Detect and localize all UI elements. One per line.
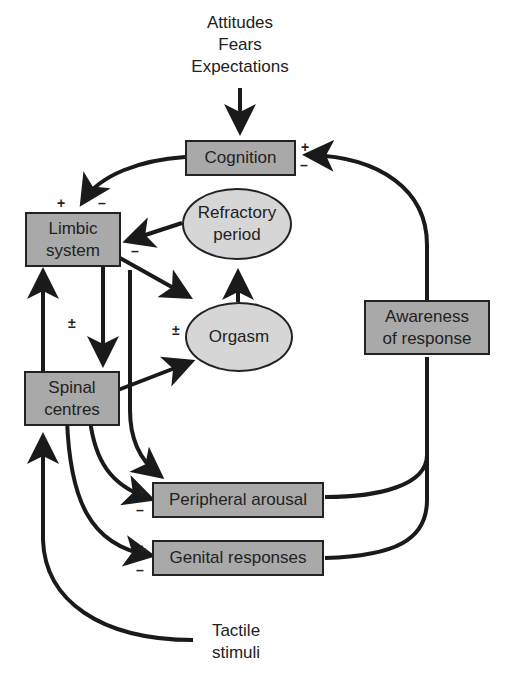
node-awareness-of-response: Awareness of response — [364, 300, 490, 355]
node-limbic-system-label: Limbic system — [46, 218, 100, 262]
node-cognition: Cognition — [185, 140, 296, 176]
node-awareness-of-response-label: Awareness of response — [383, 306, 472, 350]
genital-plus-sign: + — [138, 542, 146, 556]
orgasm-plus-minus-sign: ± — [172, 323, 180, 337]
node-spinal-centres-label: Spinal centres — [44, 377, 100, 421]
node-genital-responses-label: Genital responses — [169, 547, 306, 569]
input-tactile-stimuli: Tactile stimuli — [196, 620, 276, 664]
limbic-minus-sign: – — [98, 196, 106, 210]
peripheral-minus-sign: – — [136, 503, 144, 517]
peripheral-plus-sign: + — [138, 485, 146, 499]
node-orgasm-label: Orgasm — [209, 326, 269, 348]
cognition-minus-sign: – — [300, 158, 308, 172]
node-limbic-system: Limbic system — [25, 212, 121, 267]
node-refractory-period-label: Refractory period — [198, 202, 276, 246]
input-attitudes-fears-expectations: Attitudes Fears Expectations — [180, 12, 300, 78]
limbic-out-minus-sign: – — [131, 244, 139, 258]
node-peripheral-arousal-label: Peripheral arousal — [169, 489, 307, 511]
cognition-plus-sign: + — [301, 140, 309, 154]
node-genital-responses: Genital responses — [152, 540, 324, 576]
node-spinal-centres: Spinal centres — [24, 371, 120, 426]
genital-minus-sign: – — [136, 563, 144, 577]
node-cognition-label: Cognition — [205, 147, 277, 169]
node-peripheral-arousal: Peripheral arousal — [152, 482, 324, 518]
node-refractory-period: Refractory period — [182, 188, 292, 260]
limbic-plus-sign: + — [57, 196, 65, 210]
limbic-spinal-plus-minus-sign: ± — [68, 316, 76, 330]
node-orgasm: Orgasm — [185, 302, 293, 372]
